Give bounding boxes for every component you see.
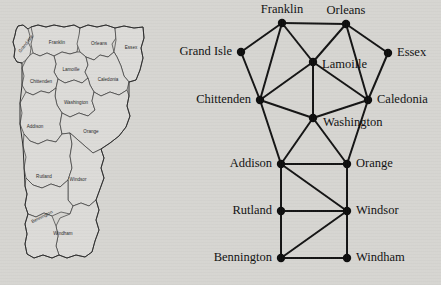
figure-canvas: Grand IsleFranklinOrleansEssexLamoilleCh… xyxy=(0,0,441,285)
map-label-lamoille: Lamoille xyxy=(62,67,80,72)
graph-node-label-addison: Addison xyxy=(230,156,273,170)
map-label-addison: Addison xyxy=(27,124,44,129)
map-label-orleans: Orleans xyxy=(91,41,108,46)
map-label-franklin: Franklin xyxy=(49,40,66,45)
graph-node-label-orleans: Orleans xyxy=(327,3,366,17)
graph-node-grand-isle[interactable] xyxy=(237,48,245,56)
graph-node-label-windham: Windham xyxy=(356,250,405,264)
graph-node-label-grand-isle: Grand Isle xyxy=(180,44,233,58)
graph-edge-franklin-lamoille xyxy=(282,23,313,62)
graph-edge-addison-windsor xyxy=(281,164,347,211)
graph-node-caledonia[interactable] xyxy=(364,96,372,104)
graph-edge-franklin-chittenden xyxy=(260,23,282,100)
graph-edge-chittenden-washington xyxy=(260,100,313,118)
graph-node-label-caledonia: Caledonia xyxy=(377,92,428,106)
graph-node-layer xyxy=(237,19,392,262)
county-shape-rutland xyxy=(23,133,72,188)
graph-node-washington[interactable] xyxy=(309,114,317,122)
graph-node-chittenden[interactable] xyxy=(256,96,264,104)
county-shape-chittenden xyxy=(22,53,58,95)
graph-node-franklin[interactable] xyxy=(278,19,286,27)
map-label-washington: Washington xyxy=(64,100,89,105)
graph-node-label-bennington: Bennington xyxy=(214,250,273,264)
graph-edge-lamoille-chittenden xyxy=(260,62,313,100)
graph-node-label-essex: Essex xyxy=(397,45,427,59)
vermont-map-svg: Grand IsleFranklinOrleansEssexLamoilleCh… xyxy=(0,0,170,285)
graph-node-orange[interactable] xyxy=(343,160,351,168)
graph-edge-caledonia-orange xyxy=(347,100,368,164)
graph-node-label-franklin: Franklin xyxy=(261,2,304,16)
graph-edge-franklin-orleans xyxy=(282,23,346,24)
graph-node-label-lamoille: Lamoille xyxy=(322,57,368,71)
map-label-chittenden: Chittenden xyxy=(30,79,53,84)
map-label-windsor: Windsor xyxy=(70,177,87,182)
graph-node-rutland[interactable] xyxy=(277,207,285,215)
graph-edge-chittenden-addison xyxy=(260,100,281,164)
map-label-essex: Essex xyxy=(125,45,138,50)
map-label-rutland: Rutland xyxy=(36,174,52,179)
graph-node-label-chittenden: Chittenden xyxy=(196,92,252,106)
adjacency-graph-panel: FranklinOrleansGrand IsleEssexLamoilleCh… xyxy=(168,0,441,285)
graph-node-addison[interactable] xyxy=(277,160,285,168)
graph-node-label-rutland: Rutland xyxy=(232,203,272,217)
graph-node-label-orange: Orange xyxy=(356,156,393,170)
graph-node-lamoille[interactable] xyxy=(309,58,317,66)
graph-node-windsor[interactable] xyxy=(343,207,351,215)
graph-node-label-washington: Washington xyxy=(323,115,383,129)
map-label-windham: Windham xyxy=(53,231,73,236)
graph-node-essex[interactable] xyxy=(384,49,392,57)
graph-node-windham[interactable] xyxy=(343,254,351,262)
adjacency-graph-svg: FranklinOrleansGrand IsleEssexLamoilleCh… xyxy=(168,0,441,285)
vermont-map-panel: Grand IsleFranklinOrleansEssexLamoilleCh… xyxy=(0,0,170,285)
graph-node-bennington[interactable] xyxy=(277,254,285,262)
map-label-orange: Orange xyxy=(83,129,99,134)
map-label-caledonia: Caledonia xyxy=(98,77,119,82)
graph-edge-windsor-bennington xyxy=(281,211,347,258)
graph-edge-washington-addison xyxy=(281,118,313,164)
graph-node-orleans[interactable] xyxy=(342,20,350,28)
graph-node-label-windsor: Windsor xyxy=(356,203,399,217)
